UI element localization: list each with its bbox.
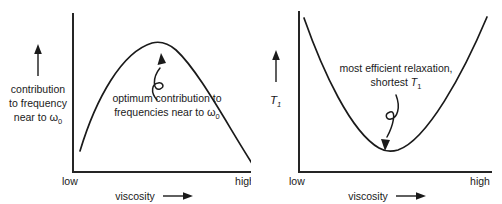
annotation-pointer-right xyxy=(386,95,398,137)
omega-subscript-left: 0 xyxy=(58,117,62,126)
x-axis-arrowhead-left xyxy=(183,192,193,200)
x-axis-title-left: viscosity xyxy=(115,190,155,202)
annotation-right-line2: shortest T1 xyxy=(371,76,422,91)
x-axis-title-right: viscosity xyxy=(348,190,388,202)
annotation-right-line2-text: shortest xyxy=(371,76,411,88)
y-axis-label-right-subscript: 1 xyxy=(277,100,281,109)
x-tick-high-right: high xyxy=(470,175,490,187)
annotation-left-line2: frequencies near to ω0 xyxy=(114,106,220,121)
annotation-left-line2-text: frequencies near to xyxy=(114,106,207,118)
annotation-left-line1: optimum contribution to xyxy=(112,92,221,104)
x-tick-high-left: high xyxy=(235,175,251,187)
annotation-right-line1: most efficient relaxation, xyxy=(339,62,452,74)
x-tick-low-right: low xyxy=(289,175,305,187)
annotation-t-subscript-right: 1 xyxy=(417,82,421,91)
axes-right xyxy=(299,12,491,172)
panel-left: contribution to frequency near to ω0 opt… xyxy=(0,0,251,204)
figure-container: contribution to frequency near to ω0 opt… xyxy=(0,0,502,204)
y-axis-label-line3-text: near to xyxy=(14,111,50,123)
y-axis-label-line1: contribution xyxy=(11,83,65,95)
y-axis-label-line2: to frequency xyxy=(9,97,68,109)
annotation-omega-subscript-left: 0 xyxy=(216,112,220,121)
x-axis-arrowhead-right xyxy=(416,192,426,200)
annotation-arrowhead-left xyxy=(158,53,167,65)
y-axis-arrowhead-left xyxy=(34,44,42,54)
x-tick-low-left: low xyxy=(62,175,78,187)
y-axis-label-line3: near to ω0 xyxy=(14,111,62,126)
y-axis-label-right: T1 xyxy=(270,94,281,109)
y-axis-arrowhead-right xyxy=(272,50,280,60)
panel-right: T1 most efficient relaxation, shortest T… xyxy=(251,0,502,204)
